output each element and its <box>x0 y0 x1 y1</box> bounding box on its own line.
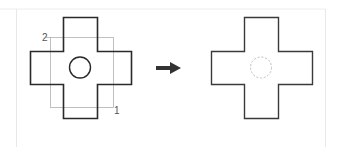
cross-outline-after <box>212 18 313 119</box>
arrow-right-icon <box>156 62 181 74</box>
circle-dashed <box>251 57 272 78</box>
before-figure: 2 1 <box>31 18 132 119</box>
circle-solid <box>70 57 91 78</box>
corner-label-1: 1 <box>114 105 120 116</box>
diagram-canvas: 2 1 <box>0 0 341 147</box>
after-figure <box>212 18 313 119</box>
corner-label-2: 2 <box>42 32 48 43</box>
selection-rectangle <box>51 38 114 108</box>
